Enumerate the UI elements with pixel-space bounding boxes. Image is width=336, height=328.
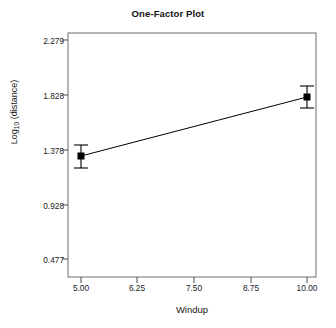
data-point-marker: [78, 153, 85, 160]
one-factor-plot-chart: One-Factor Plot Log10 (distance) Windup …: [0, 0, 336, 328]
data-point-marker: [304, 94, 311, 101]
y-axis-ticks: [62, 40, 68, 259]
x-axis-ticks: [81, 277, 307, 283]
plot-frame: [68, 33, 316, 277]
plot-canvas: [0, 0, 336, 328]
